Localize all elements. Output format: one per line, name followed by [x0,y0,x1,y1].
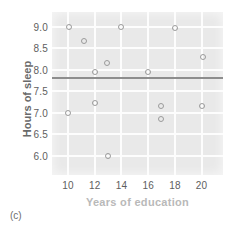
x-tick-label: 20 [196,180,208,191]
gridline-vertical [67,12,69,175]
y-tick-label: 6.5 [33,129,48,140]
y-tick-label: 7.0 [33,107,48,118]
data-point [172,25,178,31]
regression-line [52,77,223,79]
gridline-horizontal [52,90,223,92]
data-point [104,60,110,66]
data-point [199,103,205,109]
data-point [118,24,124,30]
data-point [105,153,111,159]
y-tick-label: 9.0 [33,22,48,33]
data-point [66,24,72,30]
gridline-vertical [201,12,203,175]
panel-vignette [52,12,223,175]
x-tick-label: 14 [116,180,128,191]
plot-area [52,12,223,175]
data-point [65,110,71,116]
gridline-horizontal [52,26,223,28]
data-point [158,103,164,109]
y-axis-title: Hours of sleep [21,44,33,154]
scatter-plot-figure: 6.06.57.07.58.08.59.0 101214161820 Hours… [0,0,251,232]
gridline-vertical [174,12,176,175]
data-point [145,69,151,75]
gridline-horizontal [52,47,223,49]
x-tick-label: 16 [142,180,154,191]
data-point [81,38,87,44]
panel-label: (c) [10,210,22,221]
gridline-vertical [94,12,96,175]
gridline-horizontal [52,155,223,157]
data-point [92,69,98,75]
y-tick-label: 7.5 [33,86,48,97]
y-tick-label: 8.0 [33,64,48,75]
y-tick-label: 6.0 [33,150,48,161]
gridline-horizontal [52,133,223,135]
data-point [158,116,164,122]
x-tick-label: 10 [62,180,74,191]
data-point [92,100,98,106]
gridline-vertical [147,12,149,175]
x-tick-label: 18 [169,180,181,191]
y-tick-label: 8.5 [33,43,48,54]
gridline-horizontal [52,69,223,71]
x-axis-title: Years of education [52,196,223,208]
x-tick-label: 12 [89,180,101,191]
data-point [200,54,206,60]
x-axis-ticks: 101214161820 [0,180,251,194]
gridline-vertical [120,12,122,175]
gridline-horizontal [52,112,223,114]
